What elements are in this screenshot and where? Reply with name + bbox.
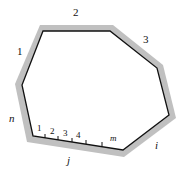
tick-label-4: 4 [76,131,81,140]
tick-label-m: m [110,134,117,143]
polygon-interior [22,31,169,150]
tick-label-3: 3 [63,129,68,138]
edge-label-i: i [155,140,158,151]
tick-label-2: 2 [50,127,55,136]
edge-label-1: 1 [17,46,23,57]
edge-label-j: j [67,155,70,166]
tick-label-1: 1 [37,124,42,133]
edge-label-n: n [9,113,15,124]
edge-label-3: 3 [143,34,149,45]
edge-label-2: 2 [73,7,79,18]
